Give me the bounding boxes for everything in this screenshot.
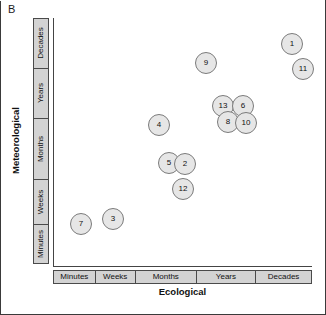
x-tick-label-decades: Decades xyxy=(268,273,300,281)
bubble-label: 13 xyxy=(219,102,228,110)
y-axis-scale-band: Decades Years Months Weeks Minutes xyxy=(33,18,49,264)
data-point-bubble[interactable]: 7 xyxy=(70,213,92,235)
y-tick-minutes: Minutes xyxy=(34,225,48,263)
data-point-bubble[interactable]: 10 xyxy=(235,112,257,134)
bubble-label: 10 xyxy=(242,119,251,127)
bubble-label: 2 xyxy=(183,160,187,168)
y-tick-label-decades: Decades xyxy=(37,28,45,60)
bubble-label: 7 xyxy=(79,220,83,228)
bubble-label: 4 xyxy=(157,121,161,129)
data-point-bubble[interactable]: 9 xyxy=(195,52,217,74)
y-tick-label-years: Years xyxy=(37,83,45,103)
data-point-bubble[interactable]: 12 xyxy=(172,178,194,200)
x-axis-line xyxy=(53,266,312,267)
bubble-label: 5 xyxy=(167,159,171,167)
bubble-label: 6 xyxy=(241,102,245,110)
bubble-label: 9 xyxy=(204,59,208,67)
y-tick-label-minutes: Minutes xyxy=(37,230,45,258)
bubble-label: 8 xyxy=(226,118,230,126)
x-tick-minutes: Minutes xyxy=(54,271,96,283)
y-tick-label-weeks: Weeks xyxy=(37,190,45,214)
x-tick-label-years: Years xyxy=(216,273,236,281)
x-axis-title: Ecological xyxy=(53,286,312,297)
data-point-bubble[interactable]: 1 xyxy=(281,33,303,55)
x-tick-label-months: Months xyxy=(153,273,179,281)
plot-area: 1 11 9 13 6 8 10 4 5 2 12 3 7 xyxy=(53,18,312,266)
x-axis-scale-band: Minutes Weeks Months Years Decades xyxy=(53,270,312,284)
data-point-bubble[interactable]: 2 xyxy=(174,153,196,175)
figure-frame-top-border xyxy=(0,0,326,1)
x-tick-decades: Decades xyxy=(256,271,311,283)
y-tick-weeks: Weeks xyxy=(34,180,48,224)
x-tick-label-minutes: Minutes xyxy=(60,273,88,281)
y-tick-decades: Decades xyxy=(34,19,48,69)
bubble-label: 3 xyxy=(111,215,115,223)
x-tick-label-weeks: Weeks xyxy=(103,273,127,281)
panel-label: B xyxy=(8,3,16,15)
figure-panel: B Meteorological Decades Years Months We… xyxy=(0,0,326,315)
x-tick-years: Years xyxy=(197,271,256,283)
x-tick-weeks: Weeks xyxy=(96,271,136,283)
y-axis-title: Meteorological xyxy=(10,81,21,201)
bubble-label: 1 xyxy=(290,40,294,48)
y-tick-months: Months xyxy=(34,119,48,181)
y-tick-years: Years xyxy=(34,69,48,119)
figure-frame-left-border xyxy=(0,0,1,315)
data-point-bubble[interactable]: 4 xyxy=(148,114,170,136)
x-tick-months: Months xyxy=(136,271,197,283)
y-tick-label-months: Months xyxy=(37,136,45,162)
data-point-bubble[interactable]: 3 xyxy=(102,208,124,230)
data-point-bubble[interactable]: 11 xyxy=(292,58,314,80)
bubble-label: 12 xyxy=(179,185,188,193)
bubble-label: 11 xyxy=(299,65,307,73)
